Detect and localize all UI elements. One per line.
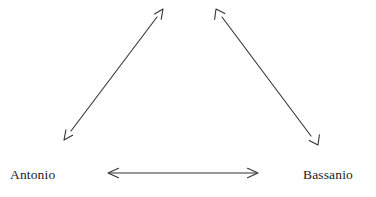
edge-antonio-to-bassanio: [108, 168, 258, 178]
node-label-antonio: Antonio: [10, 168, 55, 182]
edge-apex-to-bassanio: [215, 9, 320, 145]
diagram-canvas: Antonio Bassanio: [0, 0, 376, 197]
edge-antonio-to-apex: [64, 9, 163, 140]
edge-apex-to-bassanio-line: [222, 17, 311, 136]
node-label-bassanio: Bassanio: [303, 168, 353, 182]
edge-antonio-to-apex-line: [71, 17, 157, 131]
